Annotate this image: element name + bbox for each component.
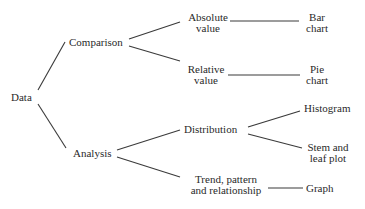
node-analysis: Analysis (73, 148, 112, 159)
node-pie-chart: Pie chart (302, 64, 332, 86)
line-analysis-distribution (117, 130, 180, 150)
node-graph: Graph (306, 183, 334, 194)
line-analysis-trend (117, 157, 180, 177)
node-data-label: Data (11, 91, 32, 103)
line-comparison-absolute (129, 22, 180, 39)
node-distribution-label: Distribution (184, 123, 237, 135)
node-stem-line2: leaf plot (303, 153, 353, 164)
node-relative-value: Relative value (184, 64, 228, 86)
node-stem-leaf-plot: Stem and leaf plot (303, 142, 353, 164)
node-comparison-label: Comparison (69, 36, 123, 48)
node-comparison: Comparison (69, 37, 123, 48)
node-bar-chart: Bar chart (302, 12, 332, 34)
node-trend-line2: and relationship (185, 185, 267, 196)
line-distribution-histogram (248, 111, 300, 127)
node-histogram-label: Histogram (304, 102, 350, 114)
line-data-analysis (38, 104, 66, 148)
node-bar-line2: chart (302, 23, 332, 34)
node-histogram: Histogram (304, 103, 350, 114)
node-analysis-label: Analysis (73, 147, 112, 159)
node-graph-label: Graph (306, 182, 334, 194)
line-distribution-stem (248, 134, 302, 148)
node-absolute-line2: value (186, 23, 230, 34)
node-distribution: Distribution (184, 124, 237, 135)
line-comparison-relative (129, 46, 180, 61)
node-trend-pattern-relationship: Trend, pattern and relationship (185, 174, 267, 196)
node-relative-line2: value (184, 75, 228, 86)
line-data-comparison (38, 42, 65, 90)
node-absolute-value: Absolute value (186, 12, 230, 34)
node-data: Data (11, 92, 32, 103)
node-pie-line2: chart (302, 75, 332, 86)
